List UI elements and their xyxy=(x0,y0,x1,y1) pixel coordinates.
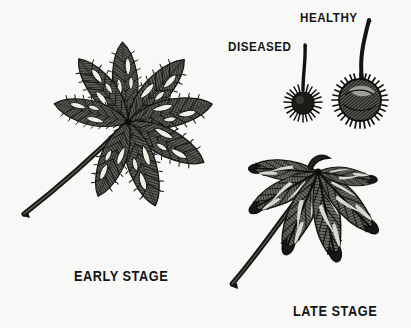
label-early-stage: EARLY STAGE xyxy=(74,269,168,284)
label-healthy: HEALTHY xyxy=(300,11,358,25)
illustration-figure: DISEASED HEALTHY EARLY STAGE LATE STAGE xyxy=(0,0,411,328)
botanical-illustration xyxy=(0,0,411,328)
figure-background xyxy=(0,0,411,328)
label-diseased: DISEASED xyxy=(228,40,291,54)
label-late-stage: LATE STAGE xyxy=(293,304,377,319)
